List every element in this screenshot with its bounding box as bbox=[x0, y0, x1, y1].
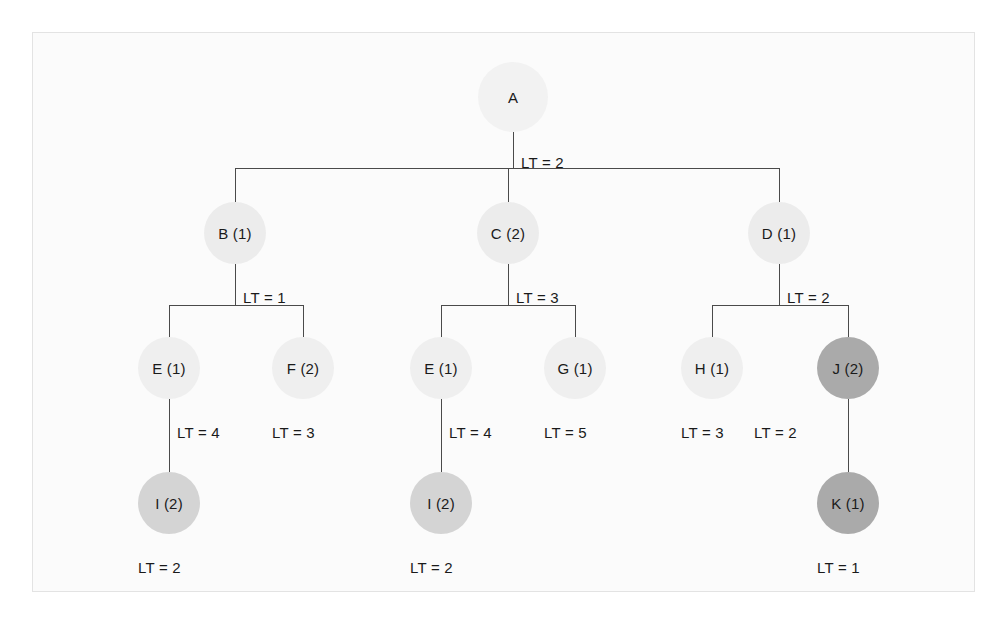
edge-d-bus-stem bbox=[779, 264, 780, 305]
tree-node-label: B (1) bbox=[218, 226, 252, 241]
edge-d-to-h bbox=[712, 305, 713, 337]
diagram-root: AB (1)C (2)D (1)E (1)F (2)E (1)G (1)H (1… bbox=[0, 0, 1004, 626]
lead-time-label-lt-a: LT = 2 bbox=[521, 155, 564, 170]
edge-d-to-j bbox=[848, 305, 849, 337]
lead-time-label-lt-i2: LT = 2 bbox=[410, 560, 453, 575]
lead-time-label-lt-e1: LT = 4 bbox=[177, 425, 220, 440]
tree-node-label: H (1) bbox=[695, 361, 729, 376]
tree-node-label: C (2) bbox=[491, 226, 525, 241]
tree-node-h[interactable]: H (1) bbox=[681, 337, 743, 399]
lead-time-label-lt-g: LT = 5 bbox=[544, 425, 587, 440]
tree-node-j[interactable]: J (2) bbox=[817, 337, 879, 399]
tree-node-label: I (2) bbox=[155, 496, 183, 511]
edge-e1-to-i1 bbox=[169, 399, 170, 472]
lead-time-label-lt-i1: LT = 2 bbox=[138, 560, 181, 575]
edge-b-to-f bbox=[303, 305, 304, 337]
tree-node-i1[interactable]: I (2) bbox=[138, 472, 200, 534]
tree-node-e2[interactable]: E (1) bbox=[410, 337, 472, 399]
tree-node-f[interactable]: F (2) bbox=[272, 337, 334, 399]
edge-a-to-c bbox=[508, 168, 509, 202]
tree-node-d[interactable]: D (1) bbox=[748, 202, 810, 264]
lead-time-label-lt-h: LT = 3 bbox=[681, 425, 724, 440]
lead-time-label-lt-b: LT = 1 bbox=[243, 290, 286, 305]
lead-time-label-lt-e2: LT = 4 bbox=[449, 425, 492, 440]
tree-node-b[interactable]: B (1) bbox=[204, 202, 266, 264]
tree-node-k[interactable]: K (1) bbox=[817, 472, 879, 534]
tree-node-g[interactable]: G (1) bbox=[544, 337, 606, 399]
lead-time-label-lt-f: LT = 3 bbox=[272, 425, 315, 440]
tree-node-a[interactable]: A bbox=[478, 62, 548, 132]
edge-j-to-k bbox=[848, 399, 849, 472]
tree-node-e1[interactable]: E (1) bbox=[138, 337, 200, 399]
tree-node-label: E (1) bbox=[152, 361, 186, 376]
tree-node-i2[interactable]: I (2) bbox=[410, 472, 472, 534]
tree-canvas: AB (1)C (2)D (1)E (1)F (2)E (1)G (1)H (1… bbox=[0, 0, 1004, 626]
edge-c-to-g bbox=[575, 305, 576, 337]
edge-a-bus bbox=[235, 168, 779, 169]
tree-node-label: I (2) bbox=[427, 496, 455, 511]
lead-time-label-lt-j: LT = 2 bbox=[754, 425, 797, 440]
edge-e2-to-i2 bbox=[441, 399, 442, 472]
edge-a-to-b bbox=[235, 168, 236, 202]
lead-time-label-lt-d: LT = 2 bbox=[787, 290, 830, 305]
lead-time-label-lt-c: LT = 3 bbox=[516, 290, 559, 305]
edge-c-to-e2 bbox=[441, 305, 442, 337]
edge-a-bus-stem bbox=[513, 132, 514, 168]
tree-node-c[interactable]: C (2) bbox=[477, 202, 539, 264]
tree-node-label: G (1) bbox=[557, 361, 592, 376]
tree-node-label: D (1) bbox=[762, 226, 796, 241]
tree-node-label: K (1) bbox=[831, 496, 865, 511]
tree-node-label: F (2) bbox=[287, 361, 320, 376]
edge-a-to-d bbox=[779, 168, 780, 202]
edge-c-bus-stem bbox=[508, 264, 509, 305]
tree-node-label: A bbox=[508, 90, 518, 105]
tree-node-label: E (1) bbox=[424, 361, 458, 376]
edge-b-to-e1 bbox=[169, 305, 170, 337]
edge-b-bus-stem bbox=[235, 264, 236, 305]
tree-node-label: J (2) bbox=[833, 361, 864, 376]
lead-time-label-lt-k: LT = 1 bbox=[817, 560, 860, 575]
